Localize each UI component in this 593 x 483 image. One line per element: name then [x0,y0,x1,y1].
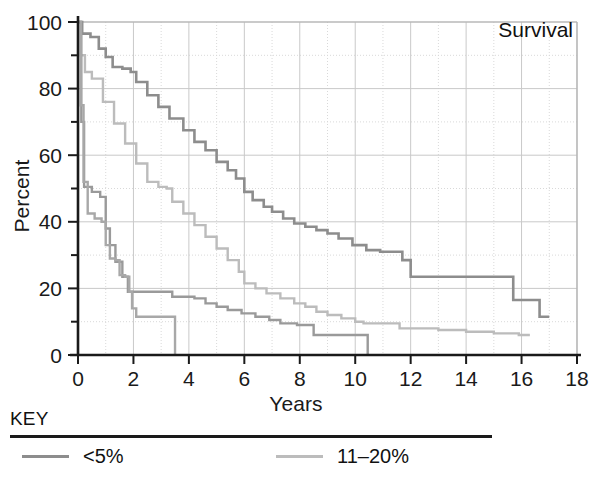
grid-minor-lines [78,22,577,355]
survival-annotation: Survival [498,18,573,42]
legend-item-0: <5% [22,446,124,466]
x-tick-label: 18 [565,367,588,390]
legend-item-label: 11–20% [337,446,409,466]
y-tick-label: 100 [27,11,62,34]
y-tick-label: 20 [39,277,62,300]
x-tick-label: 6 [238,367,250,390]
x-tick-label: 16 [510,367,533,390]
x-tick-label: 4 [183,367,195,390]
x-tick-label: 12 [399,367,422,390]
y-tick-label: 80 [39,77,62,100]
survival-chart-page: 024681012141618020406080100 Percent Year… [0,0,593,483]
series-line-0 [78,22,549,317]
y-axis-title: Percent [10,159,34,232]
series-group [78,22,549,355]
legend-key: KEY <5% 11–20% [8,408,585,482]
legend-item-label: <5% [83,446,124,466]
x-tick-label: 8 [294,367,306,390]
legend-title: KEY [10,408,49,430]
x-tick-label: 2 [128,367,140,390]
y-tick-label: 40 [39,210,62,233]
chart-figure: 024681012141618020406080100 Percent Year… [0,0,593,400]
y-tick-label: 60 [39,144,62,167]
legend-divider [10,435,492,438]
x-tick-label: 14 [454,367,478,390]
axis-lines [70,16,581,355]
x-tick-label: 10 [344,367,367,390]
legend-color-swatch-icon [22,455,69,458]
legend-item-1: 11–20% [276,446,409,466]
y-tick-label: 0 [50,344,62,367]
chart-canvas: 024681012141618020406080100 [0,0,593,400]
legend-color-swatch-icon [276,455,323,458]
x-tick-label: 0 [72,367,84,390]
